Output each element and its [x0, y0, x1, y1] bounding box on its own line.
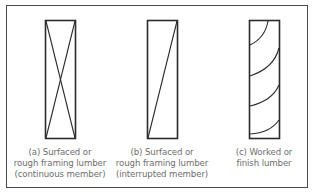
symbol-c-finish-lumber — [250, 21, 280, 139]
grain-arc-1 — [250, 21, 268, 45]
symbol-b-interrupted-member — [148, 21, 178, 139]
grain-arc-2 — [250, 48, 279, 76]
diagonal-line-b — [148, 21, 177, 138]
lumber-section-rect-c — [250, 21, 280, 139]
grain-arc-3 — [250, 85, 279, 106]
caption-c-line-1: (c) Worked or — [204, 147, 317, 158]
caption-b-line-3: (interrupted member) — [102, 169, 222, 180]
symbol-a-continuous-member — [46, 21, 76, 139]
caption-c-line-2: finish lumber — [204, 158, 317, 169]
caption-c: (c) Worked or finish lumber — [204, 147, 317, 169]
grain-arc-4 — [250, 120, 279, 134]
